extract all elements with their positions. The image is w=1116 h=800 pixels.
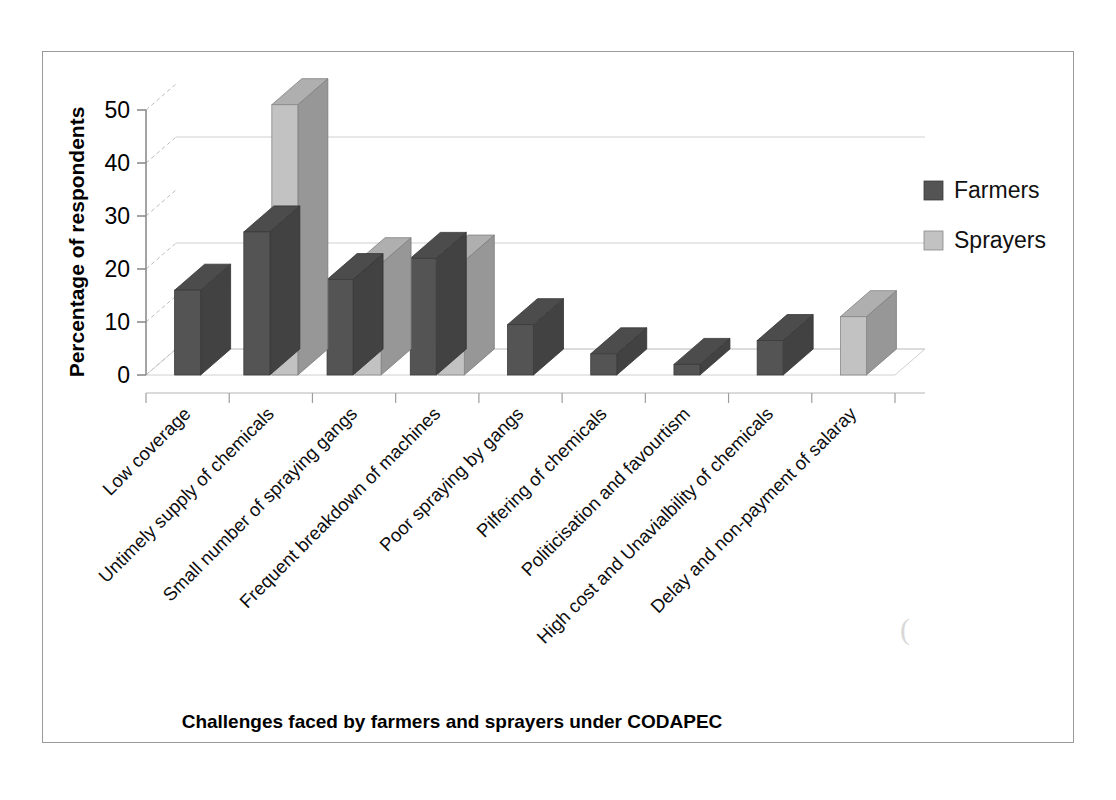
chart-figure: ( 01020304050Percentage of respondentsLo… xyxy=(0,0,1116,800)
chart-plot-frame xyxy=(42,51,1074,743)
scan-artifact-mark: ( xyxy=(900,612,910,646)
